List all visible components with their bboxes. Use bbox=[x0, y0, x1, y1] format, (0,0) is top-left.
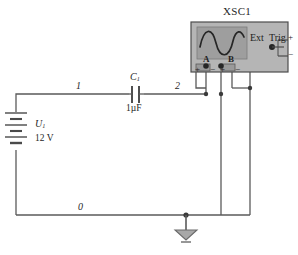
dc-source-symbol bbox=[5, 113, 27, 143]
junction-dot-channel-b bbox=[219, 92, 223, 96]
ground-triangle bbox=[175, 230, 197, 240]
terminal-b-minus-sign: − bbox=[235, 65, 240, 74]
source-name-label: U1 bbox=[35, 119, 45, 130]
terminal-a-label: A bbox=[203, 55, 210, 64]
wire-node1 bbox=[16, 94, 129, 95]
terminal-a-minus-sign: − bbox=[210, 65, 215, 74]
wire-group-top-left bbox=[16, 94, 129, 95]
capacitor-symbol bbox=[129, 86, 144, 103]
node-label-0: 0 bbox=[78, 202, 83, 212]
terminal-b-label: B bbox=[228, 55, 234, 64]
instrument-title: XSC1 bbox=[223, 6, 251, 17]
source-value-label: 12 V bbox=[35, 134, 54, 144]
capacitor-name-label: C1 bbox=[130, 72, 140, 83]
junction-dot-node2 bbox=[204, 92, 208, 96]
ext-trig-trig-label: Trig bbox=[269, 33, 286, 43]
terminal-a-plus-sign: + bbox=[195, 65, 200, 74]
source-name-subscript: 1 bbox=[42, 122, 45, 129]
wire-channel-a-minus-lead bbox=[196, 72, 206, 88]
terminal-b-plus-sign: + bbox=[220, 65, 225, 74]
capacitor-name-text: C bbox=[130, 71, 137, 82]
circuit-diagram-canvas: XSC1 Ext Trig + − A + − B + − 1 2 0 C1 1… bbox=[0, 0, 298, 255]
ext-trig-ext-label: Ext bbox=[250, 33, 264, 43]
node-label-1: 1 bbox=[76, 81, 81, 91]
terminal-a-dot[interactable] bbox=[203, 63, 209, 69]
capacitor-value-label: 1µF bbox=[126, 104, 142, 114]
ext-trig-minus-sign: − bbox=[288, 50, 293, 59]
capacitor-name-subscript: 1 bbox=[137, 75, 140, 82]
junction-dot-right bbox=[248, 86, 252, 90]
node-label-2: 2 bbox=[175, 81, 180, 91]
ground-symbol bbox=[175, 212, 197, 242]
ext-trig-plus-sign: + bbox=[288, 33, 293, 42]
